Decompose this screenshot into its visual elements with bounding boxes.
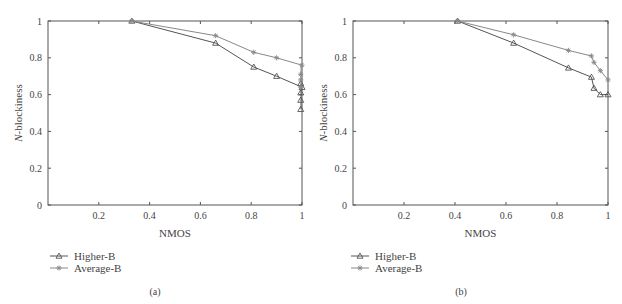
plot-frame [48,21,302,205]
panel-caption: (a) [149,286,160,298]
panel-caption: (b) [455,286,467,298]
x-axis: 0.20.40.60.81 [398,21,611,221]
y-tick-label: 0.8 [30,52,43,63]
y-axis: 00.20.40.60.81 [335,16,609,211]
star-marker-icon [591,60,596,65]
star-marker-icon [251,50,256,55]
y-tick-label: 0.2 [30,163,43,174]
x-tick-label: 0.8 [551,210,564,221]
star-marker-icon [299,63,304,68]
series-higher-b [129,18,305,112]
line-chart-b: 00.20.40.60.810.20.40.60.81NMOSN-blockin… [311,0,622,304]
legend-item: Average-B [351,262,422,274]
chart-panel-a: 00.20.40.60.810.20.40.60.81NMOSN-blockin… [0,0,311,304]
series-average-b [455,18,611,82]
x-tick-label: 0.6 [500,210,513,221]
x-tick-label: 1 [300,210,305,221]
x-tick-label: 1 [606,210,611,221]
star-marker-icon [298,85,303,90]
series-average-b [129,18,304,89]
star-marker-icon [274,55,279,60]
y-axis-title: N-blockiness [317,84,329,142]
x-tick-label: 0.2 [93,210,106,221]
legend-label: Average-B [375,262,422,274]
series-higher-b [455,18,611,97]
x-tick-label: 0.8 [245,210,258,221]
y-tick-label: 0.8 [335,52,348,63]
y-tick-label: 0.2 [335,163,348,174]
star-marker-icon [566,48,571,53]
x-axis-title: NMOS [159,227,191,239]
y-tick-label: 0.6 [30,89,43,100]
legend-label: Higher-B [375,250,416,262]
star-marker-icon [598,68,603,73]
x-axis-title: NMOS [465,227,497,239]
star-marker-icon [129,18,134,23]
x-axis: 0.20.40.60.81 [93,21,305,221]
y-tick-label: 0.6 [335,89,348,100]
legend-item: Higher-B [351,250,416,262]
y-tick-label: 0.4 [335,126,348,137]
legend: Higher-BAverage-B [351,250,422,274]
legend-item: Higher-B [50,250,115,262]
star-marker-icon [56,265,61,270]
y-axis-title: N-blockiness [12,84,24,142]
legend-item: Average-B [50,262,121,274]
star-marker-icon [213,33,218,38]
legend-label: Average-B [74,262,121,274]
legend-label: Higher-B [74,250,115,262]
line-chart-a: 00.20.40.60.810.20.40.60.81NMOSN-blockin… [0,0,311,304]
star-marker-icon [605,77,610,82]
star-marker-icon [298,77,303,82]
chart-panel-b: 00.20.40.60.810.20.40.60.81NMOSN-blockin… [311,0,622,304]
x-tick-label: 0.2 [398,210,411,221]
star-marker-icon [298,72,303,77]
y-tick-label: 0 [342,200,347,211]
legend: Higher-BAverage-B [50,250,121,274]
star-marker-icon [589,53,594,58]
x-tick-label: 0.4 [449,210,462,221]
star-marker-icon [455,18,460,23]
y-tick-label: 0.4 [30,126,43,137]
y-tick-label: 1 [37,16,42,27]
star-marker-icon [511,32,516,37]
y-axis: 00.20.40.60.81 [30,16,303,211]
y-tick-label: 0 [37,200,42,211]
y-tick-label: 1 [342,16,347,27]
star-marker-icon [357,265,362,270]
x-tick-label: 0.4 [143,210,156,221]
x-tick-label: 0.6 [194,210,207,221]
